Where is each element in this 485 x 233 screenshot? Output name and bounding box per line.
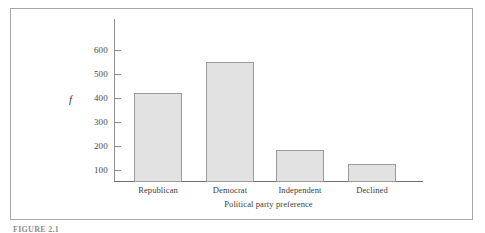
x-category-label-declined: Declined (338, 185, 406, 195)
x-axis-title: Political party preference (114, 199, 423, 209)
y-tick-label-500: 500 (78, 69, 108, 79)
y-tick-label-300-wrap: 300 (74, 117, 108, 128)
y-tick-label-400: 400 (78, 93, 108, 103)
y-tick-label-200: 200 (78, 141, 108, 151)
figure-page: 600 500 400 300 200 100 f (0, 0, 485, 233)
y-tick-label-200-wrap: 200 (74, 141, 108, 152)
figure-caption: FIGURE 2.1 (13, 225, 59, 233)
y-tick-label-400-wrap: 400 (74, 93, 108, 104)
y-tick-label-600-wrap: 600 (74, 45, 108, 56)
bar-declined (348, 164, 396, 182)
y-tick-500 (115, 74, 121, 75)
y-tick-100 (115, 170, 121, 171)
bar-republican (134, 93, 182, 182)
y-tick-label-500-wrap: 500 (74, 69, 108, 80)
y-tick-600 (115, 50, 121, 51)
x-category-label-republican: Republican (124, 185, 192, 195)
bar-democrat (206, 62, 254, 182)
bar-chart-plot-area: 600 500 400 300 200 100 f (11, 9, 474, 221)
y-tick-200 (115, 146, 121, 147)
x-category-label-independent: Independent (266, 185, 334, 195)
x-category-label-democrat: Democrat (196, 185, 264, 195)
y-tick-label-100-wrap: 100 (74, 165, 108, 176)
y-tick-label-100: 100 (78, 165, 108, 175)
bar-independent (276, 150, 324, 182)
figure-frame: 600 500 400 300 200 100 f (10, 8, 473, 220)
y-tick-300 (115, 122, 121, 123)
y-tick-400 (115, 98, 121, 99)
y-axis-label: f (69, 93, 72, 105)
y-tick-label-600: 600 (78, 45, 108, 55)
y-tick-label-300: 300 (78, 117, 108, 127)
y-axis-line (114, 19, 115, 182)
